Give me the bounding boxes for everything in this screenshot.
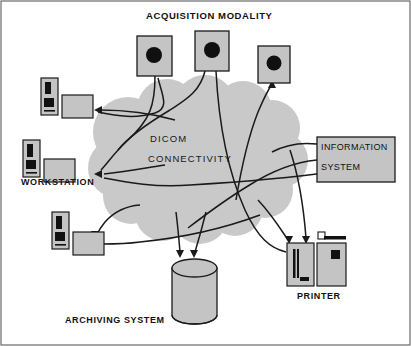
acquisition-modality-3[interactable]: [258, 46, 290, 83]
cloud-label-line2: CONNECTIVITY: [148, 154, 232, 164]
information-system-label-line2: SYSTEM: [321, 163, 360, 172]
information-system-label-line1: INFORMATION: [321, 143, 388, 152]
diagram-canvas: ACQUISITION MODALITY DICOM CONNECTIVITY …: [0, 0, 411, 346]
printer-label: PRINTER: [297, 292, 341, 301]
archiving-system-label: ARCHIVING SYSTEM: [65, 316, 165, 325]
cloud-label-line1: DICOM: [150, 134, 187, 144]
acquisition-modality-2[interactable]: [195, 31, 229, 71]
acquisition-modality-1[interactable]: [137, 36, 172, 76]
diagram-graphics: [0, 0, 411, 346]
archiving-system-cylinder[interactable]: [172, 259, 217, 324]
workstation-label: WORKSTATION: [21, 178, 94, 187]
acquisition-modality-title: ACQUISITION MODALITY: [146, 11, 273, 21]
